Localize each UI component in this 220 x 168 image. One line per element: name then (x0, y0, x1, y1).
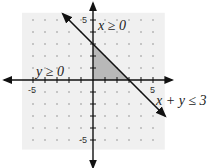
grid-dot (68, 115, 69, 116)
grid-dot (68, 43, 69, 44)
grid-dot (32, 43, 33, 44)
annotation-y-nonneg: y ≥ 0 (34, 64, 64, 79)
grid-dot (44, 115, 45, 116)
grid-dot (152, 139, 153, 140)
grid-dot (56, 127, 57, 128)
grid-dot (104, 103, 105, 104)
grid-dot (68, 31, 69, 32)
grid-dot (104, 127, 105, 128)
grid-dot (56, 139, 57, 140)
grid-dot (56, 103, 57, 104)
grid-dot (128, 139, 129, 140)
grid-dot (68, 55, 69, 56)
grid-dot (152, 127, 153, 128)
grid-dot (68, 103, 69, 104)
grid-dot (152, 115, 153, 116)
grid-dot (128, 55, 129, 56)
grid-dot (116, 103, 117, 104)
grid-dot (104, 115, 105, 116)
grid-dot (140, 67, 141, 68)
grid-dot (32, 19, 33, 20)
grid-dot (152, 31, 153, 32)
grid-dot (128, 19, 129, 20)
grid-dot (140, 43, 141, 44)
grid-dot (32, 103, 33, 104)
grid-dot (152, 19, 153, 20)
grid-dot (152, 55, 153, 56)
grid-dot (68, 67, 69, 68)
grid-dot (32, 55, 33, 56)
grid-dot (80, 115, 81, 116)
grid-dot (140, 103, 141, 104)
grid-dot (116, 127, 117, 128)
grid-dot (128, 43, 129, 44)
grid-dot (44, 127, 45, 128)
grid-dot (152, 43, 153, 44)
grid-dot (140, 127, 141, 128)
grid-dot (56, 91, 57, 92)
grid-dot (32, 139, 33, 140)
grid-dot (68, 127, 69, 128)
grid-dot (116, 55, 117, 56)
grid-dot (116, 91, 117, 92)
grid-dot (32, 31, 33, 32)
grid-dot (44, 139, 45, 140)
grid-dot (116, 43, 117, 44)
grid-dot (44, 103, 45, 104)
grid-dot (44, 31, 45, 32)
grid-dot (44, 43, 45, 44)
grid-dot (56, 19, 57, 20)
grid-dot (128, 115, 129, 116)
grid-dot (80, 55, 81, 56)
grid-dot (80, 67, 81, 68)
grid-dot (140, 19, 141, 20)
grid-dot (32, 127, 33, 128)
grid-dot (152, 67, 153, 68)
annotation-line-inequality: x + y ≤ 3 (155, 93, 207, 108)
grid-dot (56, 43, 57, 44)
grid-dot (68, 91, 69, 92)
grid-dot (128, 31, 129, 32)
y-tick-label-neg5: -5 (79, 135, 87, 145)
grid-dot (140, 115, 141, 116)
inequality-graph: -5 5 5 -5 x ≥ 0 y ≥ 0 x + y ≤ 3 (0, 0, 220, 168)
grid-dot (56, 31, 57, 32)
grid-dot (80, 127, 81, 128)
grid-dot (56, 55, 57, 56)
grid-dot (80, 91, 81, 92)
grid-dot (104, 139, 105, 140)
x-tick-label-5: 5 (150, 85, 155, 95)
grid-dot (44, 19, 45, 20)
grid-dot (68, 139, 69, 140)
grid-dot (44, 91, 45, 92)
grid-dot (128, 103, 129, 104)
grid-dot (104, 43, 105, 44)
grid-dot (32, 67, 33, 68)
grid-dot (128, 127, 129, 128)
y-tick-label-5: 5 (82, 15, 87, 25)
grid-dot (104, 91, 105, 92)
grid-dot (140, 139, 141, 140)
grid-dot (32, 115, 33, 116)
grid-dot (44, 55, 45, 56)
grid-dot (56, 115, 57, 116)
grid-dot (80, 103, 81, 104)
annotation-x-nonneg: x ≥ 0 (97, 18, 126, 33)
grid-dot (128, 91, 129, 92)
grid-dot (80, 43, 81, 44)
grid-dot (140, 55, 141, 56)
x-tick-label-neg5: -5 (28, 85, 36, 95)
grid-dot (116, 115, 117, 116)
grid-dot (116, 139, 117, 140)
grid-dot (140, 31, 141, 32)
grid-dot (128, 67, 129, 68)
